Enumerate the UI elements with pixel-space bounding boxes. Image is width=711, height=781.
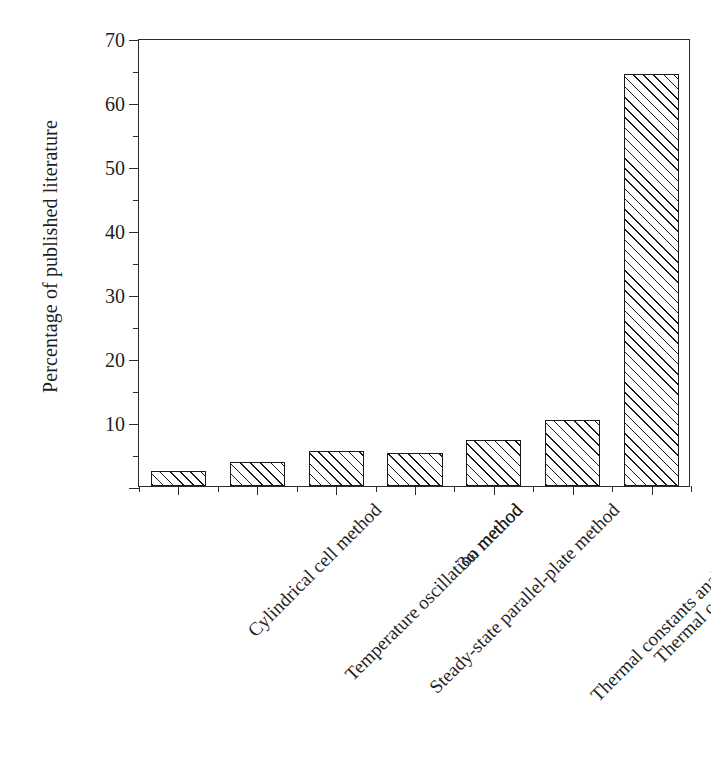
- y-axis-tick: [129, 296, 139, 297]
- x-axis-minor-tick: [454, 486, 455, 492]
- x-axis-tick: [178, 486, 179, 495]
- bar: [466, 440, 521, 486]
- y-axis-tick: [129, 232, 139, 233]
- bar: [624, 74, 679, 486]
- y-axis-tick: [129, 488, 139, 489]
- x-axis-minor-tick: [612, 486, 613, 492]
- x-axis-category-label: 3ω method: [453, 499, 528, 574]
- y-axis-title-container: Percentage of published literature: [0, 0, 100, 520]
- y-axis-tick-label: 20: [105, 349, 125, 372]
- x-axis-tick: [494, 486, 495, 495]
- y-axis-minor-tick: [133, 72, 139, 73]
- y-axis-tick-label: 70: [105, 29, 125, 52]
- x-axis-tick: [415, 486, 416, 495]
- y-axis-minor-tick: [133, 264, 139, 265]
- x-axis-category-label: Steady-state parallel-plate method: [425, 499, 624, 698]
- y-axis-tick-label: 10: [105, 413, 125, 436]
- bar: [545, 420, 600, 486]
- bar: [309, 451, 364, 486]
- y-axis-tick-label: 50: [105, 157, 125, 180]
- bar: [151, 471, 206, 486]
- x-axis-minor-tick: [376, 486, 377, 492]
- x-axis-category-label: Thermal comparator method: [649, 499, 711, 668]
- x-axis-tick: [652, 486, 653, 495]
- y-axis-minor-tick: [133, 136, 139, 137]
- y-axis-tick: [129, 40, 139, 41]
- y-axis-tick: [129, 104, 139, 105]
- y-axis-tick-label: 40: [105, 221, 125, 244]
- x-axis-category-label: Thermal constants analyzer method: [586, 499, 711, 706]
- y-axis-tick: [129, 360, 139, 361]
- y-axis-minor-tick: [133, 456, 139, 457]
- x-axis-minor-tick: [218, 486, 219, 492]
- plot-area: 10203040506070: [138, 39, 690, 487]
- bar-chart-figure: Percentage of published literature 10203…: [0, 0, 711, 781]
- x-axis-tick: [573, 486, 574, 495]
- x-axis-minor-tick: [297, 486, 298, 492]
- x-axis-category-label: Temperature oscillation method: [341, 499, 527, 685]
- x-axis-minor-tick: [139, 486, 140, 492]
- y-axis-tick-label: 30: [105, 285, 125, 308]
- bar: [230, 462, 285, 486]
- x-axis-category-label: Cylindrical cell method: [244, 499, 386, 641]
- y-axis-tick: [129, 424, 139, 425]
- y-axis-tick: [129, 168, 139, 169]
- y-axis-minor-tick: [133, 392, 139, 393]
- bar: [387, 453, 442, 486]
- y-axis-tick-label: 60: [105, 93, 125, 116]
- x-axis-tick: [257, 486, 258, 495]
- x-axis-minor-tick: [691, 486, 692, 492]
- y-axis-minor-tick: [133, 200, 139, 201]
- y-axis-title: Percentage of published literature: [39, 57, 62, 457]
- x-axis-minor-tick: [533, 486, 534, 492]
- x-axis-tick: [336, 486, 337, 495]
- y-axis-minor-tick: [133, 328, 139, 329]
